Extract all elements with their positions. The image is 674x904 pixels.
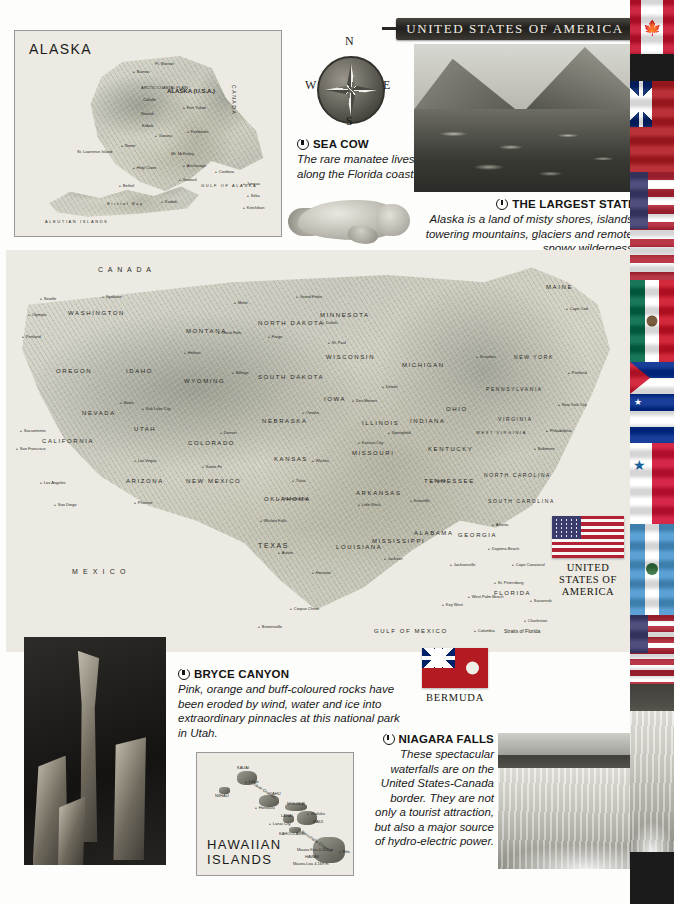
photo-lake-rocks	[414, 109, 634, 192]
largest-state-caption-heading: THE LARGEST STATE	[406, 198, 636, 210]
flag-wave-shading	[630, 172, 674, 280]
flag-wave-shading	[630, 443, 674, 524]
bermuda-ensign-flag	[630, 81, 674, 171]
largest-state-title: THE LARGEST STATE	[512, 198, 636, 210]
page-title: UNITED STATES OF AMERICA	[406, 21, 624, 37]
hawaiian-islands-inset-label: HAWAIIAN ISLANDS	[207, 837, 282, 867]
atlas-page: UNITED STATES OF AMERICA ALASKA ALASKA (…	[0, 0, 674, 904]
page-title-banner: UNITED STATES OF AMERICA	[396, 18, 634, 40]
flag-canton	[552, 516, 581, 539]
largest-state-caption: THE LARGEST STATE Alaska is a land of mi…	[406, 198, 636, 256]
sea-cow-title: SEA COW	[313, 138, 369, 150]
island-kauai	[237, 771, 257, 785]
compass-north-label: N	[345, 34, 354, 49]
camera-bullet-icon	[383, 733, 395, 745]
flag-border-strip: 🍁 ★ ★	[630, 0, 674, 904]
sea-cow-caption: SEA COW The rare manatee lives along the…	[297, 138, 419, 181]
bryce-canyon-title: BRYCE CANYON	[194, 668, 289, 680]
mexico-flag	[630, 280, 674, 361]
united-states-main-map[interactable]: C A N A D A M E X I C O GULF OF MEXICO S…	[6, 250, 630, 652]
bryce-canyon-hoodoo-photo	[24, 637, 166, 865]
usa-flag-caption: UNITED STATES OF AMERICA	[545, 562, 631, 598]
hawaii-label-line2: ISLANDS	[207, 852, 282, 867]
flag-gap	[630, 54, 674, 81]
island-lanai	[283, 815, 294, 823]
hawaii-label-line1: HAWAIIAN	[207, 837, 282, 852]
manatee-head	[376, 204, 410, 236]
compass-south-label: S	[346, 114, 353, 129]
niagara-falls-title: NIAGARA FALLS	[399, 733, 494, 745]
flag-wave-shading	[630, 81, 674, 171]
united-states-flag	[630, 615, 674, 687]
alaska-mountain-lake-photo	[414, 44, 634, 192]
photo-tree-line	[630, 684, 674, 714]
usa-flag-block: UNITED STATES OF AMERICA	[545, 516, 631, 600]
bryce-canyon-caption: BRYCE CANYON Pink, orange and buff-colou…	[178, 668, 410, 740]
compass-rose: N E S W	[303, 34, 395, 129]
largest-state-body: Alaska is a land of misty shores, island…	[406, 212, 636, 256]
bryce-canyon-body: Pink, orange and buff-coloured rocks hav…	[178, 682, 410, 740]
photo-mist	[630, 781, 674, 852]
canada-flag: 🍁	[630, 0, 674, 54]
camera-bullet-icon	[178, 668, 190, 680]
island-hawaii	[313, 837, 345, 863]
usa-flag-caption-line3: AMERICA	[545, 586, 631, 598]
flag-wave-shading	[630, 524, 674, 614]
island-oahu	[259, 795, 279, 807]
cuba-flag: ★	[630, 362, 674, 443]
flag-wave-shading	[630, 280, 674, 361]
sea-cow-body: The rare manatee lives along the Florida…	[297, 152, 419, 181]
sea-cow-caption-heading: SEA COW	[297, 138, 419, 150]
photo-rock-spire	[112, 737, 149, 860]
manatee-illustration	[290, 190, 418, 256]
niagara-falls-caption: NIAGARA FALLS These spectacular waterfal…	[372, 733, 494, 849]
united-states-flag-icon	[552, 516, 624, 558]
bermuda-flag-block: BERMUDA	[413, 648, 497, 710]
niagara-falls-photo-bleed	[630, 684, 674, 852]
usa-flag-caption-line2: STATES OF	[545, 574, 631, 586]
bermuda-flag-icon	[422, 648, 488, 688]
compass-west-label: W	[305, 78, 316, 93]
compass-east-label: E	[383, 78, 390, 93]
hawaiian-islands-inset-map[interactable]: KAUAI Lihue NIIHAU Kauai Channel OAHU Ho…	[196, 752, 354, 876]
panama-flag: ★	[630, 443, 674, 524]
island-kahoolawe	[289, 827, 301, 833]
island-niihau	[219, 787, 230, 794]
niagara-falls-caption-heading: NIAGARA FALLS	[372, 733, 494, 745]
bryce-canyon-caption-heading: BRYCE CANYON	[178, 668, 410, 680]
niagara-falls-body: These spectacular waterfalls are on the …	[372, 747, 494, 849]
flag-wave-shading	[630, 0, 674, 54]
united-states-flag	[630, 172, 674, 280]
bermuda-crest-icon	[466, 662, 479, 675]
flag-wave-shading	[630, 362, 674, 443]
camera-bullet-icon	[297, 138, 309, 150]
guatemala-flag	[630, 524, 674, 614]
photo-rock-spire	[58, 797, 86, 865]
usa-flag-caption-line1: UNITED	[545, 562, 631, 574]
alaska-inset-label: ALASKA	[29, 41, 92, 57]
flag-wave-shading	[630, 615, 674, 687]
union-jack-canton	[422, 648, 455, 668]
bermuda-flag-caption: BERMUDA	[413, 692, 497, 703]
island-maui	[297, 811, 317, 825]
island-molokai	[285, 803, 307, 811]
alaska-inset-map[interactable]: ALASKA ALASKA (U.S.A.) CANADA ALEUTIAN I…	[14, 30, 282, 237]
camera-bullet-icon	[496, 198, 508, 210]
